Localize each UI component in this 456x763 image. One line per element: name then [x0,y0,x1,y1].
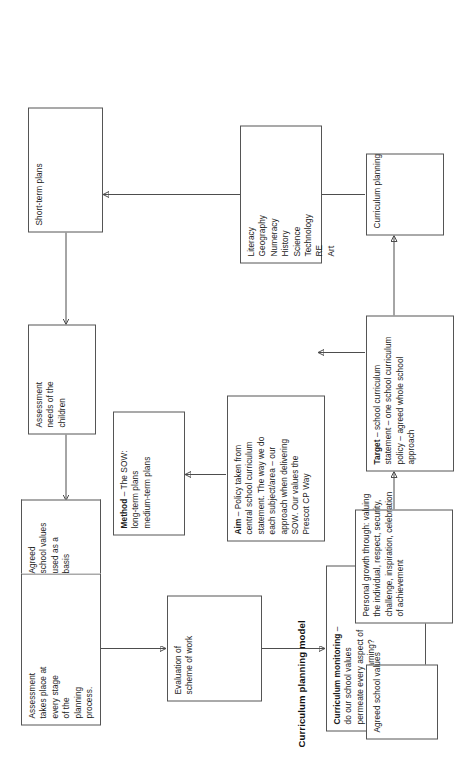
node-line: Short-term plans [34,114,45,225]
node-line: of the [61,580,72,718]
node-line: scheme of work [184,602,195,694]
node-personal-growth: Personal growth through: valuing the ind… [355,509,453,623]
node-line: Personal growth through: valuing [361,516,372,616]
node-line: approach when delivering [279,402,290,534]
diagram-title: Curriculum planning model [296,620,307,747]
node-line: Agreed school values [372,671,383,732]
node-line: Target – school curriculum [372,322,383,464]
node-assessment-stage-cont: Agreed school values used as a basis [21,499,101,573]
node-bold-lead: Target [372,439,382,464]
node-evaluation-scheme: Evaluation of scheme of work [167,595,262,701]
node-line: approach [406,322,417,464]
node-line: planning [73,580,84,718]
node-line: school values [38,506,49,573]
node-bold-lead: Method [119,498,129,528]
node-agreed-school-values: Agreed school values [366,664,438,739]
node-line: process. [84,580,95,718]
node-line: Geography [257,132,268,256]
node-line: children [57,331,68,427]
node-line: used as a [50,506,61,573]
diagram-stage: Curriculum planning model Assessment tak… [0,0,456,763]
node-line: needs of the [45,331,56,427]
node-line-rest: – The SOW: [119,450,129,498]
node-line: Assessment [27,580,38,718]
node-line: Art [326,132,337,256]
node-line: Literacy [246,132,257,256]
node-line: medium-term plans [142,418,153,528]
node-line: Curriculum monitoring – [332,572,343,724]
node-line: of achievement [395,516,406,616]
node-line: do our school values [343,572,354,724]
node-line: Evaluation of [173,602,184,694]
node-line: Aim – Policy taken from [233,402,244,534]
node-line: the individual, respect, security, [372,516,383,616]
node-assessment-stage: Assessment takes place at every stage of… [21,573,101,725]
node-line: every stage [50,580,61,718]
node-line: central school curriculum [244,402,255,534]
node-short-term-plans: Short-term plans [28,107,103,232]
node-line: statement – one school curriculum [383,322,394,464]
node-line: takes place at [38,580,49,718]
node-line: Agreed [27,506,38,573]
node-subjects-list: Literacy Geography Numeracy History Scie… [240,125,322,263]
node-assessment-needs: Assessment needs of the children [28,324,96,434]
node-line: basis [61,506,72,573]
node-line: Science [292,132,303,256]
node-line: Numeracy [269,132,280,256]
node-line-rest: – Policy taken from [233,444,243,518]
node-line: Prescot CP Way [301,402,312,534]
node-line: Method – The SOW: [119,418,130,528]
node-line: Curriculum planning [372,160,383,228]
node-curriculum-planning: Curriculum planning [366,153,444,235]
node-bold-lead: Curriculum monitoring [332,633,342,724]
node-target-statement: Target – school curriculum statement – o… [366,315,454,471]
node-line: long-term plans [130,418,141,528]
node-line-rest: – [332,626,342,633]
node-line: Technology [303,132,314,256]
node-line: SOW. Our values the [290,402,301,534]
diagram-canvas: Curriculum planning model Assessment tak… [0,0,456,763]
node-line: History [280,132,291,256]
node-line: Assessment [34,331,45,427]
node-bold-lead: Aim [233,518,243,534]
node-line: challenge, inspiration, celebration [384,516,395,616]
node-aim-policy: Aim – Policy taken from central school c… [227,395,325,541]
node-line: policy – agreed whole school [395,322,406,464]
node-line: each subject/area – our [267,402,278,534]
node-method-sow: Method – The SOW: long-term plans medium… [113,411,185,535]
node-line: statement. The way we do [256,402,267,534]
node-line: RE [314,132,325,256]
node-line-rest: – school curriculum [372,364,382,439]
